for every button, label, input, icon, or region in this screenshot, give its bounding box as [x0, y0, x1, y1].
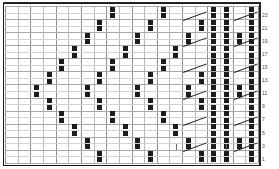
grid-cell-filled[interactable] [110, 13, 115, 18]
grid-cell-filled[interactable] [135, 39, 140, 44]
grid-cell-filled[interactable] [85, 39, 90, 44]
grid-cell-filled[interactable] [173, 124, 178, 129]
grid-cell-filled[interactable] [34, 85, 39, 90]
grid-cell-filled[interactable] [85, 138, 90, 143]
grid-cell-filled[interactable] [135, 92, 140, 97]
grid-cell-filled[interactable] [161, 111, 166, 116]
grid-cell-filled[interactable] [97, 26, 102, 31]
grid-cell-filled[interactable] [199, 157, 204, 162]
grid-cell-filled[interactable] [148, 79, 153, 84]
grid-cell-filled[interactable] [110, 66, 115, 71]
grid-cell-filled[interactable] [135, 85, 140, 90]
grid-cell-filled[interactable] [211, 111, 216, 116]
grid-cell-filled[interactable] [224, 33, 229, 38]
grid-cell-filled[interactable] [59, 111, 64, 116]
grid-cell-filled[interactable] [211, 20, 216, 25]
grid-cell-filled[interactable] [135, 138, 140, 143]
grid-cell-filled[interactable] [249, 20, 254, 25]
grid-cell-filled[interactable] [224, 85, 229, 90]
grid-cell-filled[interactable] [211, 59, 216, 64]
grid-cell-filled[interactable] [224, 53, 229, 58]
grid-cell-filled[interactable] [224, 26, 229, 31]
tick-symbol[interactable] [176, 144, 177, 150]
grid-cell-filled[interactable] [224, 124, 229, 129]
grid-cell-filled[interactable] [211, 118, 216, 123]
grid-cell-filled[interactable] [249, 85, 254, 90]
grid-cell-filled[interactable] [161, 118, 166, 123]
grid-cell-filled[interactable] [249, 72, 254, 77]
grid-cell-filled[interactable] [123, 46, 128, 51]
grid-cell-filled[interactable] [249, 7, 254, 12]
grid-cell-filled[interactable] [110, 118, 115, 123]
grid-cell-filled[interactable] [72, 124, 77, 129]
grid-cell-filled[interactable] [224, 66, 229, 71]
grid-cell-filled[interactable] [211, 138, 216, 143]
grid-cell-filled[interactable] [72, 46, 77, 51]
grid-cell-filled[interactable] [224, 151, 229, 156]
grid-cell-filled[interactable] [186, 138, 191, 143]
grid-cell-filled[interactable] [85, 144, 90, 149]
grid-cell-filled[interactable] [123, 131, 128, 136]
grid-cell-filled[interactable] [97, 105, 102, 110]
grid-cell-filled[interactable] [148, 98, 153, 103]
grid-cell-filled[interactable] [224, 39, 229, 44]
grid-cell-filled[interactable] [85, 85, 90, 90]
grid-cell-filled[interactable] [224, 13, 229, 18]
grid-cell-filled[interactable] [211, 92, 216, 97]
grid-cell-filled[interactable] [249, 98, 254, 103]
grid-cell-filled[interactable] [148, 26, 153, 31]
grid-cell-filled[interactable] [211, 72, 216, 77]
grid-cell-filled[interactable] [85, 92, 90, 97]
grid-cell-filled[interactable] [161, 13, 166, 18]
grid-cell-filled[interactable] [249, 124, 254, 129]
grid-cell-filled[interactable] [249, 26, 254, 31]
grid-cell-filled[interactable] [249, 46, 254, 51]
grid-cell-filled[interactable] [59, 59, 64, 64]
grid-cell-filled[interactable] [123, 53, 128, 58]
grid-cell-filled[interactable] [173, 131, 178, 136]
grid-cell-filled[interactable] [211, 13, 216, 18]
grid-cell-filled[interactable] [199, 20, 204, 25]
grid-cell-filled[interactable] [199, 72, 204, 77]
grid-cell-filled[interactable] [199, 79, 204, 84]
grid-cell-filled[interactable] [148, 157, 153, 162]
grid-cell-filled[interactable] [224, 98, 229, 103]
grid-cell-filled[interactable] [249, 105, 254, 110]
grid-cell-filled[interactable] [211, 151, 216, 156]
grid-cell-filled[interactable] [161, 7, 166, 12]
grid-cell-filled[interactable] [211, 98, 216, 103]
grid-cell-filled[interactable] [199, 98, 204, 103]
grid-cell-filled[interactable] [199, 26, 204, 31]
grid-cell-filled[interactable] [110, 7, 115, 12]
grid-cell-filled[interactable] [224, 105, 229, 110]
grid-cell-filled[interactable] [72, 53, 77, 58]
grid-cell-filled[interactable] [211, 33, 216, 38]
chart-grid[interactable] [5, 6, 258, 163]
grid-cell-filled[interactable] [224, 20, 229, 25]
grid-cell-filled[interactable] [211, 53, 216, 58]
grid-cell-filled[interactable] [173, 53, 178, 58]
grid-cell-filled[interactable] [224, 118, 229, 123]
grid-cell-filled[interactable] [186, 85, 191, 90]
grid-cell-filled[interactable] [224, 59, 229, 64]
grid-cell-filled[interactable] [211, 26, 216, 31]
grid-cell-filled[interactable] [97, 20, 102, 25]
grid-cell-filled[interactable] [59, 118, 64, 123]
grid-cell-filled[interactable] [47, 105, 52, 110]
grid-cell-filled[interactable] [199, 105, 204, 110]
grid-cell-filled[interactable] [249, 111, 254, 116]
grid-cell-filled[interactable] [211, 66, 216, 71]
tick-symbol[interactable] [226, 144, 227, 150]
grid-cell-filled[interactable] [161, 66, 166, 71]
grid-cell-filled[interactable] [211, 124, 216, 129]
grid-cell-filled[interactable] [135, 144, 140, 149]
grid-cell-filled[interactable] [224, 79, 229, 84]
grid-cell-filled[interactable] [249, 157, 254, 162]
grid-cell-filled[interactable] [211, 7, 216, 12]
grid-cell-filled[interactable] [237, 138, 242, 143]
grid-cell-filled[interactable] [249, 53, 254, 58]
grid-cell-filled[interactable] [249, 151, 254, 156]
grid-cell-filled[interactable] [123, 124, 128, 129]
grid-cell-filled[interactable] [211, 46, 216, 51]
grid-cell-filled[interactable] [97, 72, 102, 77]
